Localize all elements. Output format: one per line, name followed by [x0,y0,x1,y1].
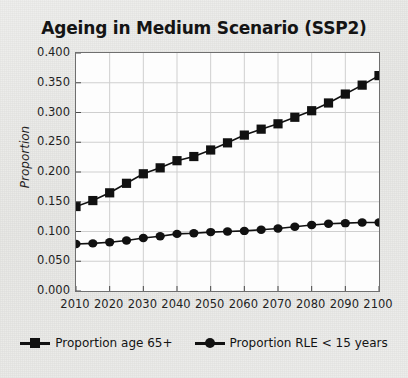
data-point-square [189,152,198,161]
data-point-square [76,202,81,211]
data-point-circle [206,228,215,236]
data-point-circle [257,226,266,234]
data-point-circle [223,227,232,235]
data-point-circle [105,238,114,246]
data-point-circle [122,236,131,244]
data-point-circle [156,232,165,240]
data-point-square [122,179,131,188]
data-point-square [223,138,232,147]
legend-item-proportion-age-65plus[interactable]: Proportion age 65+ [20,336,172,350]
data-point-circle [273,224,282,232]
plot-svg [76,53,379,291]
data-point-square [156,163,165,172]
data-point-square [206,145,215,154]
y-axis-tick-label: 0.150 [10,194,70,208]
data-point-square [88,196,97,205]
data-point-circle [88,239,97,247]
y-axis-tick-label: 0.250 [10,134,70,148]
legend-item-proportion-rle-under-15[interactable]: Proportion RLE < 15 years [195,336,388,350]
data-point-circle [240,227,249,235]
data-point-circle [290,223,299,231]
y-axis-tick-label: 0.300 [10,105,70,119]
y-axis-tick-label: 0.050 [10,253,70,267]
data-point-circle [76,240,81,248]
plot-area [75,52,380,292]
data-point-square [139,169,148,178]
y-axis-tick-label: 0.350 [10,75,70,89]
data-point-square [324,98,333,107]
data-point-square [290,113,299,122]
chart-container: Ageing in Medium Scenario (SSP2) Proport… [0,0,408,378]
data-point-square [105,188,114,197]
legend-square-marker-icon [20,337,50,349]
data-point-circle [172,230,181,238]
data-point-circle [374,218,379,226]
data-point-square [240,131,249,140]
data-point-square [172,156,181,165]
data-point-square [307,106,316,115]
legend-circle-marker-icon [195,337,225,349]
data-point-circle [341,219,350,227]
x-axis-tick-label: 2100 [358,297,398,311]
data-point-circle [189,229,198,237]
data-point-circle [307,221,316,229]
y-axis-tick-label: 0.200 [10,164,70,178]
data-point-circle [324,220,333,228]
data-point-square [374,71,379,80]
data-point-square [358,81,367,90]
legend-label: Proportion RLE < 15 years [230,336,388,350]
chart-legend: Proportion age 65+ Proportion RLE < 15 y… [0,336,408,350]
data-point-square [341,89,350,98]
legend-label: Proportion age 65+ [55,336,172,350]
data-point-circle [139,234,148,242]
y-axis-tick-label: 0.400 [10,45,70,59]
chart-title: Ageing in Medium Scenario (SSP2) [0,18,408,38]
data-point-square [273,119,282,128]
data-point-square [257,125,266,134]
y-axis-tick-label: 0.000 [10,283,70,297]
data-point-circle [358,218,367,226]
y-axis-tick-label: 0.100 [10,224,70,238]
